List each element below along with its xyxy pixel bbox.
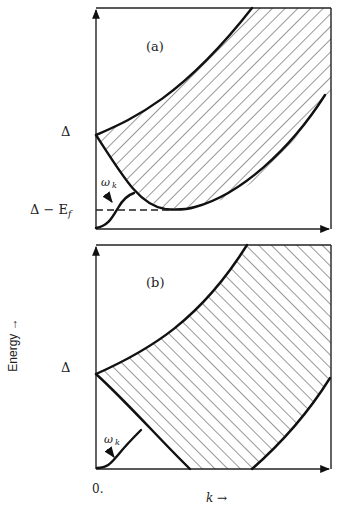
panel-a: ωk (a) Δ Δ − Ef [30, 8, 331, 229]
omega-k-label-b: ωk [104, 433, 120, 447]
panel-label-b: (b) [146, 275, 164, 290]
omega-k-pointer-b [108, 449, 114, 457]
dispersion-figure: ωk (a) Δ Δ − Ef ωk (b) Δ 0. k → Energy → [0, 0, 337, 509]
continuum-region-a [96, 8, 331, 208]
panel-label-a: (a) [146, 39, 164, 54]
y-axis-label: Energy → [6, 318, 20, 371]
x-axis-label: k → [206, 491, 227, 505]
origin-label: 0. [92, 482, 103, 496]
omega-k-label-a: ωk [101, 176, 117, 190]
delta-minus-ef-tick-label: Δ − Ef [30, 202, 73, 219]
omega-k-pointer-a [106, 194, 112, 202]
delta-tick-label-b: Δ [61, 360, 70, 375]
delta-tick-label-a: Δ [61, 124, 70, 139]
panel-b: ωk (b) Δ [61, 245, 331, 469]
